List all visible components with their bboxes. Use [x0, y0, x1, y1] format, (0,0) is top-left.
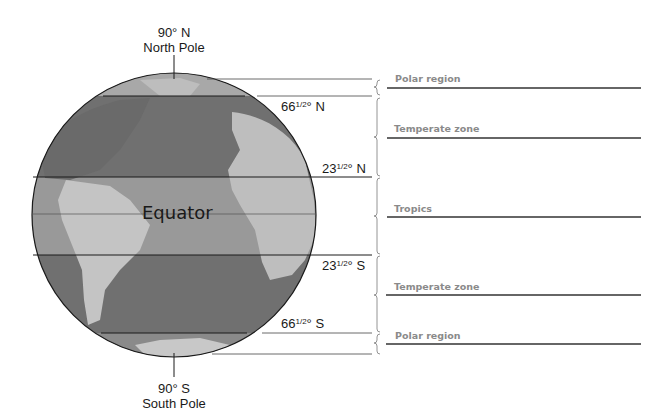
globe-diagram — [0, 0, 671, 416]
north-pole-degree: 90° N — [114, 25, 234, 40]
south-pole-name: South Pole — [114, 396, 234, 411]
zone-label-north-polar: Polar region — [395, 73, 461, 84]
zone-label-south-polar: Polar region — [395, 330, 461, 341]
zone-label-tropics: Tropics — [394, 203, 432, 214]
south-pole-degree: 90° S — [114, 381, 234, 396]
latitude-label-antarctic: 661/2° S — [281, 316, 324, 331]
north-pole-label: 90° N North Pole — [114, 25, 234, 55]
north-pole-name: North Pole — [114, 40, 234, 55]
latitude-label-capricorn: 231/2° S — [322, 258, 365, 273]
zone-label-south-temperate: Temperate zone — [394, 281, 479, 292]
equator-label: Equator — [142, 202, 213, 223]
latitude-label-cancer: 231/2° N — [322, 161, 366, 176]
south-pole-label: 90° S South Pole — [114, 381, 234, 411]
zone-label-north-temperate: Temperate zone — [394, 123, 479, 134]
latitude-label-arctic: 661/2° N — [281, 99, 325, 114]
zone-braces — [374, 80, 380, 354]
